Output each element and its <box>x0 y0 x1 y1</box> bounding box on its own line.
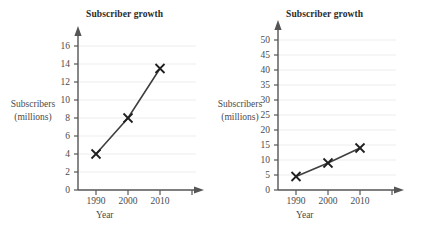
y-tick-label: 25 <box>250 110 270 120</box>
y-axis-arrowhead <box>74 26 81 36</box>
plot-area <box>0 0 212 227</box>
charts-row: Subscriber growth Subscribers (millions)… <box>0 0 425 227</box>
y-tick-label: 12 <box>50 77 70 87</box>
gridlines <box>278 40 396 175</box>
y-tick-label: 15 <box>250 140 270 150</box>
y-tick-label: 20 <box>250 125 270 135</box>
y-tick-label: 8 <box>50 113 70 123</box>
x-axis-arrowhead <box>394 186 404 193</box>
x-tick-label: 1990 <box>79 196 113 206</box>
y-tick-label: 0 <box>250 185 270 195</box>
x-tick-label: 1990 <box>279 196 313 206</box>
x-tick-label: 2010 <box>143 196 177 206</box>
data-line <box>96 69 160 155</box>
x-tick-label: 2000 <box>111 196 145 206</box>
y-tick-label: 40 <box>250 65 270 75</box>
y-tick-label: 45 <box>250 50 270 60</box>
y-tick-label: 0 <box>50 185 70 195</box>
chart-panel-right: Subscriber growth Subscribers (millions)… <box>212 0 425 227</box>
x-tick-label: 2010 <box>343 196 377 206</box>
y-tick-label: 5 <box>250 170 270 180</box>
x-tick-label: 2000 <box>311 196 345 206</box>
y-tick-label: 2 <box>50 167 70 177</box>
x-tick-marks <box>96 190 192 195</box>
y-tick-label: 6 <box>50 131 70 141</box>
x-tick-marks <box>296 190 392 195</box>
y-tick-label: 14 <box>50 59 70 69</box>
x-axis-arrowhead <box>194 186 204 193</box>
y-tick-label: 35 <box>250 80 270 90</box>
y-tick-label: 30 <box>250 95 270 105</box>
y-tick-label: 16 <box>50 41 70 51</box>
y-tick-label: 50 <box>250 35 270 45</box>
y-tick-label: 10 <box>250 155 270 165</box>
y-tick-label: 10 <box>50 95 70 105</box>
chart-panel-left: Subscriber growth Subscribers (millions)… <box>0 0 212 227</box>
plot-area <box>212 0 424 227</box>
y-axis-arrowhead <box>274 20 281 30</box>
y-tick-label: 4 <box>50 149 70 159</box>
